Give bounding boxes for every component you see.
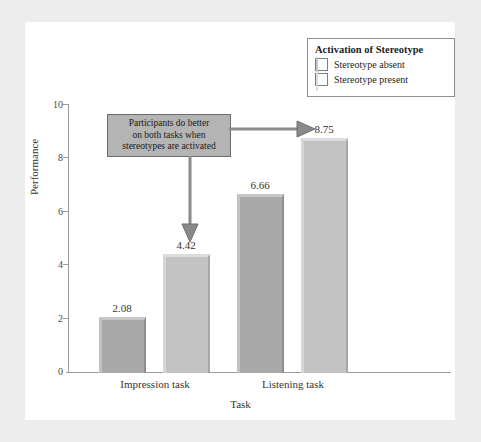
annotation-line-2: on both tasks when (132, 130, 205, 140)
x-category-impression: Impression task (85, 378, 225, 390)
legend-swatch-icon (315, 73, 328, 86)
legend-item-absent[interactable]: Stereotype absent (315, 58, 449, 71)
legend: Activation of Stereotype Stereotype abse… (307, 38, 455, 97)
legend-item-label: Stereotype present (334, 74, 408, 86)
y-tick-4: 4 (0, 260, 63, 270)
y-tick-6: 6 (0, 207, 63, 217)
x-category-listening: Listening task (223, 378, 363, 390)
y-tick-label: 10 (41, 100, 63, 110)
annotation-arrow-down-icon (175, 156, 205, 246)
y-tick-label: 4 (41, 260, 63, 270)
y-tick-2: 2 (0, 314, 63, 324)
annotation-arrow-right-icon (229, 118, 324, 140)
chart-figure: 10 8 6 4 2 0 Performance 2.08 4.42 6.66 … (0, 0, 481, 442)
x-axis-title: Task (0, 398, 481, 410)
bar-value-label: 2.08 (92, 303, 152, 314)
y-tick-0: 0 (0, 367, 63, 377)
legend-title: Activation of Stereotype (315, 43, 449, 56)
y-tick-10: 10 (0, 100, 63, 110)
bar-impression-absent[interactable] (99, 317, 146, 373)
y-tick-label: 2 (41, 314, 63, 324)
annotation-callout: Participants do better on both tasks whe… (107, 114, 231, 157)
bar-impression-present[interactable] (163, 254, 210, 373)
y-tick-label: 6 (41, 207, 63, 217)
annotation-line-1: Participants do better (129, 118, 210, 128)
legend-item-label: Stereotype absent (334, 59, 405, 71)
y-tick-label: 8 (41, 153, 63, 163)
legend-swatch-icon (315, 58, 328, 71)
legend-item-present[interactable]: Stereotype present (315, 73, 449, 86)
y-axis-title: Performance (28, 139, 40, 195)
bar-value-label: 6.66 (230, 180, 290, 191)
annotation-line-3: stereotypes are activated (122, 141, 215, 151)
bar-listening-present[interactable] (301, 138, 348, 373)
annotation-callout-text: Participants do better on both tasks whe… (119, 118, 218, 153)
y-tick-label: 0 (41, 367, 63, 377)
bar-listening-absent[interactable] (237, 194, 284, 373)
